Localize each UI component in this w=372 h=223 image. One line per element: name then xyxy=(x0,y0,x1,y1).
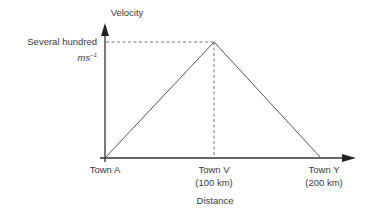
tick-town-v-distance: (100 km) xyxy=(195,177,232,189)
tick-town-v: Town V xyxy=(198,164,229,176)
x-axis-label: Distance xyxy=(197,195,234,207)
peak-unit-label: ms−1 xyxy=(77,49,97,64)
peak-value-label: Several hundred xyxy=(27,36,97,48)
y-axis-arrow-icon xyxy=(101,23,109,36)
tick-town-y: Town Y xyxy=(309,164,340,176)
y-axis-label: Velocity xyxy=(111,7,144,19)
velocity-line xyxy=(105,42,321,158)
velocity-distance-diagram xyxy=(0,0,372,223)
peak-unit-exponent: −1 xyxy=(90,52,97,58)
tick-town-y-distance: (200 km) xyxy=(305,177,342,189)
tick-town-a: Town A xyxy=(90,164,121,176)
peak-unit-text: ms xyxy=(77,52,90,63)
x-axis-arrow-icon xyxy=(342,154,356,162)
